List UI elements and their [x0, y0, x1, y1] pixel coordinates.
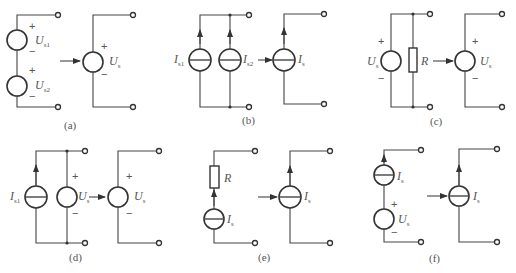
- label-us: Us: [480, 54, 492, 70]
- minus-sign: −: [378, 72, 384, 84]
- terminal-icon: [157, 149, 162, 154]
- voltage-source-icon: [57, 187, 77, 207]
- label-is: Is: [297, 52, 305, 68]
- label-us2: Us2: [35, 78, 50, 94]
- current-source-parallel-voltage-source: Is1 + − Us: [9, 149, 90, 246]
- equivalent-voltage-source: + − Us: [108, 149, 162, 246]
- plus-sign: +: [378, 35, 384, 47]
- terminal-icon: [131, 13, 136, 18]
- resistor-icon: [210, 166, 219, 188]
- label-is1: Is1: [9, 189, 21, 205]
- label-us: Us: [78, 189, 90, 205]
- equivalent-current-source: Is: [279, 149, 333, 246]
- plus-sign: +: [29, 64, 35, 76]
- plus-sign: +: [29, 20, 35, 32]
- caption-c: (c): [430, 115, 443, 128]
- voltage-source-icon: [381, 51, 401, 71]
- panel-a: + − Us1 + − Us2 + − Us (a): [7, 13, 136, 133]
- label-is: Is: [303, 189, 311, 205]
- minus-sign: −: [126, 207, 132, 219]
- plus-sign: +: [101, 40, 107, 52]
- label-is1: Is1: [173, 52, 185, 68]
- caption-b: (b): [242, 114, 255, 127]
- terminal-icon: [56, 13, 61, 18]
- label-us: Us: [134, 189, 146, 205]
- terminal-icon: [157, 241, 162, 246]
- plus-sign: +: [472, 35, 478, 47]
- label-us: Us: [367, 54, 379, 70]
- minus-sign: −: [72, 207, 78, 219]
- current-source-series-voltage-source: Is + − Us: [374, 148, 424, 245]
- voltage-source-icon: [455, 51, 475, 71]
- voltage-source-icon: [83, 52, 103, 72]
- terminal-icon: [247, 13, 252, 18]
- equivalent-current-source: Is: [273, 12, 327, 107]
- caption-f: (f): [429, 252, 440, 265]
- terminal-icon: [500, 12, 505, 17]
- terminal-icon: [83, 149, 88, 154]
- terminal-icon: [328, 241, 333, 246]
- panel-f: Is + − Us Is (f): [374, 147, 500, 266]
- series-voltage-sources: + − Us1 + − Us2: [7, 13, 61, 110]
- voltage-source-icon: [108, 187, 128, 207]
- terminal-icon: [495, 147, 500, 152]
- plus-sign: +: [72, 170, 78, 182]
- voltage-source-parallel-resistor: + − Us R: [367, 12, 433, 110]
- caption-a: (a): [64, 119, 77, 132]
- label-is: Is: [226, 212, 234, 228]
- terminal-icon: [419, 148, 424, 153]
- terminal-icon: [500, 105, 505, 110]
- plus-sign: +: [126, 170, 132, 182]
- terminal-icon: [322, 102, 327, 107]
- equivalent-voltage-source: + − Us: [455, 12, 505, 110]
- terminal-icon: [247, 105, 252, 110]
- panel-e: R Is Is (e): [204, 149, 333, 265]
- terminal-icon: [56, 105, 61, 110]
- label-us1: Us1: [35, 33, 50, 49]
- caption-d: (d): [69, 251, 82, 264]
- circuit-equivalence-figure: + − Us1 + − Us2 + − Us (a): [0, 0, 516, 273]
- caption-e: (e): [258, 251, 271, 264]
- plus-sign: +: [391, 198, 397, 210]
- panel-c: + − Us R + − Us (c): [367, 12, 505, 129]
- terminal-icon: [322, 12, 327, 17]
- label-r: R: [223, 171, 232, 185]
- terminal-icon: [131, 105, 136, 110]
- voltage-source-icon: [7, 76, 27, 96]
- resistor-icon: [409, 48, 417, 72]
- terminal-icon: [83, 241, 88, 246]
- voltage-source-icon: [7, 30, 27, 50]
- terminal-icon: [419, 240, 424, 245]
- panel-b: Is1 Is2 Is (b): [173, 12, 327, 128]
- equivalent-current-source: Is: [449, 147, 500, 245]
- minus-sign: −: [472, 72, 478, 84]
- label-us: Us: [109, 54, 121, 70]
- terminal-icon: [253, 149, 258, 154]
- terminal-icon: [428, 12, 433, 17]
- label-r: R: [420, 54, 429, 68]
- label-us: Us: [398, 212, 410, 228]
- equivalent-voltage-source: + − Us: [83, 13, 136, 110]
- panel-d: Is1 + − Us + − Us (d): [9, 149, 162, 265]
- parallel-current-sources: Is1 Is2: [173, 13, 254, 110]
- terminal-icon: [428, 105, 433, 110]
- current-source-series-resistor: R Is: [204, 149, 258, 246]
- minus-sign: −: [101, 68, 107, 80]
- terminal-icon: [328, 149, 333, 154]
- label-is2: Is2: [242, 52, 254, 68]
- terminal-icon: [495, 240, 500, 245]
- minus-sign: −: [391, 226, 397, 238]
- label-is: Is: [396, 169, 404, 185]
- label-is: Is: [472, 189, 480, 205]
- terminal-icon: [253, 241, 258, 246]
